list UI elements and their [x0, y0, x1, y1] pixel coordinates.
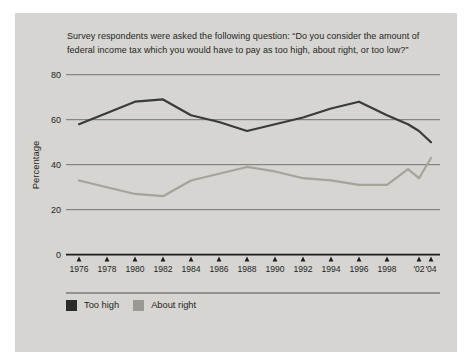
- x-tick-label: 1992: [293, 264, 312, 274]
- legend-item-about-right: About right: [133, 300, 196, 311]
- legend-item-too-high: Too high: [66, 300, 119, 311]
- x-tick-triangle: [357, 257, 362, 262]
- x-tick-triangle: [301, 257, 306, 262]
- x-tick-triangle: [329, 257, 334, 262]
- y-tick-label: 80: [51, 70, 61, 80]
- x-tick-triangle: [385, 257, 390, 262]
- about-right-swatch: [133, 300, 144, 311]
- about-right-label: About right: [151, 300, 196, 310]
- about-right-line: [79, 158, 431, 196]
- chart-panel: Survey respondents were asked the follow…: [15, 13, 457, 352]
- x-tick-triangle: [429, 257, 434, 262]
- y-tick-label: 20: [51, 205, 61, 215]
- x-tick-label: '02: [413, 264, 424, 274]
- x-tick-label: 1998: [377, 264, 396, 274]
- x-tick-label: 1988: [237, 264, 256, 274]
- x-tick-triangle: [417, 257, 422, 262]
- x-tick-label: 1976: [69, 264, 88, 274]
- y-tick-label: 0: [56, 250, 61, 260]
- x-tick-label: 1984: [181, 264, 200, 274]
- x-tick-triangle: [245, 257, 250, 262]
- y-tick-label: 40: [51, 160, 61, 170]
- x-tick-triangle: [273, 257, 278, 262]
- too-high-swatch: [66, 300, 77, 311]
- x-tick-label: 1980: [125, 264, 144, 274]
- x-tick-triangle: [133, 257, 138, 262]
- x-tick-label: 1994: [321, 264, 340, 274]
- y-tick-label: 60: [51, 115, 61, 125]
- x-tick-label: 1982: [153, 264, 172, 274]
- legend: Too high About right: [66, 299, 210, 311]
- too-high-line: [79, 99, 431, 142]
- x-tick-label: '04: [425, 264, 436, 274]
- x-tick-triangle: [189, 257, 194, 262]
- too-high-label: Too high: [84, 300, 119, 310]
- y-axis-label: Percentage: [30, 141, 41, 190]
- x-tick-label: 1990: [265, 264, 284, 274]
- x-tick-label: 1996: [349, 264, 368, 274]
- x-tick-label: 1986: [209, 264, 228, 274]
- x-tick-triangle: [217, 257, 222, 262]
- x-tick-triangle: [105, 257, 110, 262]
- x-tick-triangle: [77, 257, 82, 262]
- x-tick-label: 1978: [97, 264, 116, 274]
- x-tick-triangle: [161, 257, 166, 262]
